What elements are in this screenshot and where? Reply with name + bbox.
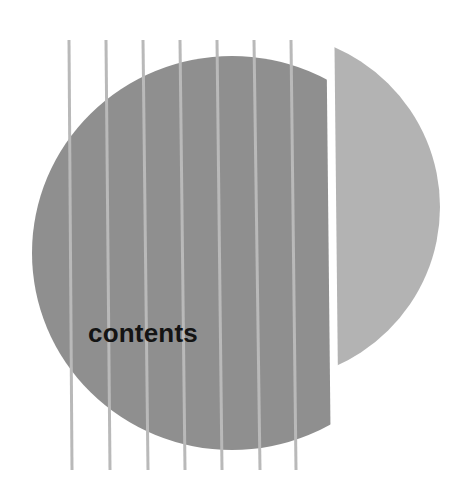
contents-graphic: [0, 0, 470, 479]
contents-heading: contents: [88, 318, 198, 348]
